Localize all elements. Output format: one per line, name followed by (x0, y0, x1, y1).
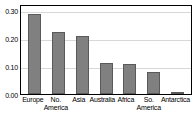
plot-inner (21, 6, 191, 94)
bar[interactable] (171, 92, 184, 94)
x-tick-label: Africa (115, 96, 137, 119)
x-tick-label-line1: So. (144, 96, 154, 103)
x-tick-label-line1: Australia (90, 96, 115, 103)
bar-slot (94, 6, 118, 94)
x-tick-label-line1: No. (51, 96, 61, 103)
bar-slot (47, 6, 71, 94)
x-tick-label-line1: Europe (22, 96, 43, 103)
x-tick-label-line2: America (44, 104, 68, 112)
bar-slot (165, 6, 189, 94)
y-tick-label: 0.00 (5, 92, 18, 99)
x-tick-label: So.America (137, 96, 161, 119)
bar[interactable] (28, 14, 41, 94)
x-tick-label: Asia (68, 96, 90, 119)
bar[interactable] (123, 64, 136, 94)
y-tick-label: 0.10 (5, 63, 18, 70)
x-axis: EuropeNo.AmericaAsiaAustraliaAfricaSo.Am… (20, 96, 192, 119)
x-tick-label: No.America (44, 96, 68, 119)
x-tick-label: Australia (90, 96, 115, 119)
x-tick-label: Europe (22, 96, 44, 119)
y-tick-label: 0.20 (5, 35, 18, 42)
y-tick-label: 0.30 (5, 7, 18, 14)
x-tick-label-line1: Africa (117, 96, 134, 103)
bar[interactable] (76, 36, 89, 94)
bar[interactable] (52, 32, 65, 94)
bar-slot (142, 6, 166, 94)
bars-layer (21, 6, 191, 94)
x-tick-label: Antarctica (161, 96, 190, 119)
y-axis: 0.000.100.200.30 (0, 0, 20, 119)
bar-chart: 0.000.100.200.30 EuropeNo.AmericaAsiaAus… (0, 0, 194, 119)
bar[interactable] (100, 63, 113, 95)
x-tick-label-line1: Asia (72, 96, 85, 103)
x-tick-label-line2: America (137, 104, 161, 112)
x-tick-label-line1: Antarctica (161, 96, 190, 103)
bar-slot (118, 6, 142, 94)
bar-slot (23, 6, 47, 94)
bar[interactable] (147, 72, 160, 94)
plot-area (20, 5, 192, 95)
bar-slot (70, 6, 94, 94)
